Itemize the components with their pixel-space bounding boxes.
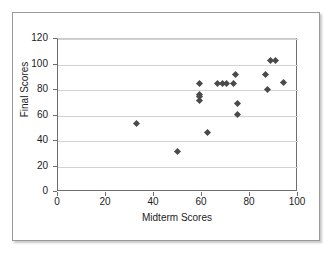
x-tick-label: 0 (42, 197, 72, 207)
gridline (58, 141, 298, 142)
gridline (58, 167, 298, 168)
y-tick-label: 0 (12, 186, 48, 196)
figure-container: 020406080100120 020406080100 Final Score… (0, 0, 332, 254)
y-tick-mark (53, 140, 57, 141)
x-axis-label: Midterm Scores (57, 212, 297, 223)
y-tick-label: 80 (12, 84, 48, 94)
y-tick-label: 100 (12, 59, 48, 69)
y-tick-label: 40 (12, 135, 48, 145)
x-tick-label: 100 (282, 197, 312, 207)
y-axis-label: Final Scores (19, 45, 30, 135)
y-tick-label: 120 (12, 33, 48, 43)
plot-area (57, 38, 297, 191)
gridline (58, 90, 298, 91)
y-tick-mark (53, 115, 57, 116)
gridline (58, 116, 298, 117)
gridline (58, 65, 298, 66)
x-tick-label: 80 (234, 197, 264, 207)
y-tick-mark (53, 38, 57, 39)
x-tick-label: 40 (138, 197, 168, 207)
y-tick-label: 20 (12, 161, 48, 171)
x-tick-label: 60 (186, 197, 216, 207)
y-tick-mark (53, 166, 57, 167)
y-tick-mark (53, 64, 57, 65)
x-tick-label: 20 (90, 197, 120, 207)
y-tick-label: 60 (12, 110, 48, 120)
gridline (58, 39, 298, 40)
y-tick-mark (53, 89, 57, 90)
scatter-chart: 020406080100120 020406080100 Final Score… (0, 0, 332, 254)
